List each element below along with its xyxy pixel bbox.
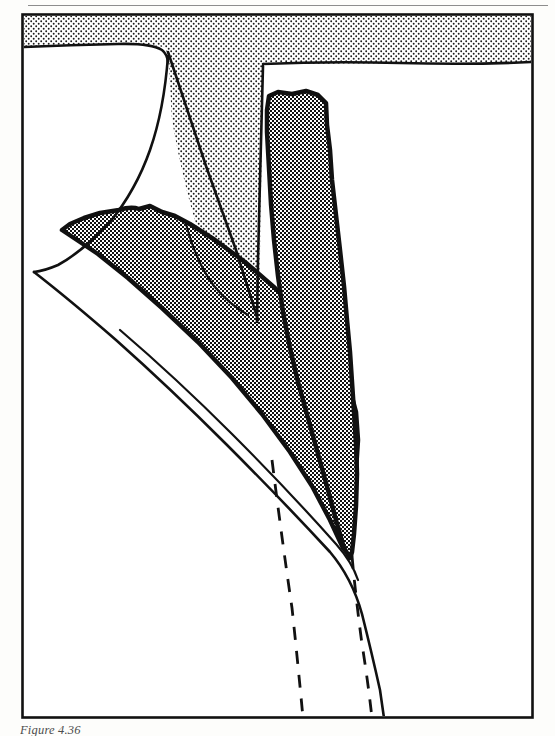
- figure-panel: [0, 0, 555, 736]
- line-stipple-top-boundary: [263, 62, 531, 64]
- figure-illustration: [0, 0, 555, 736]
- figure-caption: Figure 4.36: [20, 723, 81, 736]
- page-canvas: Figure 4.36: [0, 0, 555, 736]
